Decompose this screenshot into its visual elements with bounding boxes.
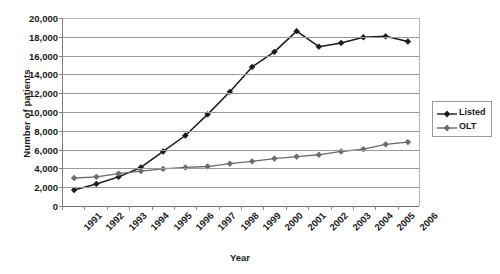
x-axis-tick-mark	[286, 206, 287, 210]
legend-label: Listed	[459, 107, 486, 117]
x-axis-tick-label: 1995	[171, 210, 194, 233]
x-axis-tick-label: 1998	[238, 210, 261, 233]
gridline	[63, 168, 419, 169]
x-axis-tick-label: 2002	[327, 210, 350, 233]
y-axis-tick-label: 12,000	[12, 88, 58, 99]
x-axis-tick-label: 2004	[372, 210, 395, 233]
x-axis-tick-label: 2001	[305, 210, 328, 233]
x-axis-tick-label: 2000	[283, 210, 306, 233]
legend-label: OLT	[459, 121, 476, 131]
gridline	[63, 150, 419, 151]
x-axis-tick-label: 1991	[81, 210, 104, 233]
y-axis-tick-labels: 02,0004,0006,0008,00010,00012,00014,0001…	[12, 12, 58, 212]
gridline	[63, 93, 419, 94]
y-axis-tick-label: 0	[12, 201, 58, 212]
legend-item-listed: Listed	[436, 105, 486, 119]
x-axis-tick-label: 1996	[193, 210, 216, 233]
y-axis-tick-mark	[59, 168, 63, 169]
x-axis-tick-mark	[308, 206, 309, 210]
y-axis-tick-label: 14,000	[12, 69, 58, 80]
plot-area	[62, 18, 420, 206]
y-axis-tick-mark	[59, 37, 63, 38]
x-axis-tick-mark	[241, 206, 242, 210]
x-axis-tick-mark	[84, 206, 85, 210]
data-point-marker	[294, 154, 300, 160]
y-axis-tick-mark	[59, 74, 63, 75]
x-axis-tick-mark	[219, 206, 220, 210]
gridline	[63, 74, 419, 75]
data-point-marker	[93, 181, 99, 187]
data-point-marker	[338, 40, 344, 46]
x-axis-tick-label: 1993	[126, 210, 149, 233]
y-axis-tick-label: 2,000	[12, 182, 58, 193]
x-axis-tick-label: 1992	[104, 210, 127, 233]
x-axis-tick-mark	[129, 206, 130, 210]
y-axis-tick-mark	[59, 131, 63, 132]
x-axis-tick-mark	[152, 206, 153, 210]
x-axis-tick-mark	[107, 206, 108, 210]
x-axis-tick-mark	[263, 206, 264, 210]
x-axis-tick-label: 1997	[215, 210, 238, 233]
x-axis-tick-mark	[398, 206, 399, 210]
data-point-marker	[93, 174, 99, 180]
data-point-marker	[227, 161, 233, 167]
x-axis-tick-label: 1999	[260, 210, 283, 233]
gridline	[63, 18, 419, 19]
x-axis-tick-labels: 1991199219931994199519961997199819992000…	[62, 206, 420, 252]
legend-marker-icon	[436, 106, 458, 118]
data-point-marker	[405, 39, 411, 45]
data-point-marker	[71, 175, 77, 181]
legend-marker-icon	[436, 120, 458, 132]
legend-item-olt: OLT	[436, 119, 486, 133]
x-axis-tick-mark	[196, 206, 197, 210]
x-axis-tick-label: 2005	[394, 210, 417, 233]
y-axis-tick-mark	[59, 56, 63, 57]
y-axis-tick-label: 18,000	[12, 31, 58, 42]
y-axis-tick-mark	[59, 112, 63, 113]
gridline	[63, 187, 419, 188]
y-axis-tick-mark	[59, 93, 63, 94]
y-axis-tick-mark	[59, 18, 63, 19]
x-axis-tick-mark	[331, 206, 332, 210]
y-axis-tick-label: 10,000	[12, 107, 58, 118]
data-point-marker	[405, 139, 411, 145]
gridline	[63, 37, 419, 38]
x-axis-tick-mark	[353, 206, 354, 210]
gridline	[63, 131, 419, 132]
x-axis-tick-label: 2006	[417, 210, 440, 233]
x-axis-tick-label: 2003	[350, 210, 373, 233]
y-axis-tick-label: 6,000	[12, 144, 58, 155]
y-axis-tick-label: 8,000	[12, 125, 58, 136]
x-axis-tick-mark	[62, 206, 63, 210]
x-axis-tick-mark	[174, 206, 175, 210]
y-axis-tick-mark	[59, 150, 63, 151]
data-point-marker	[316, 152, 322, 158]
gridline	[63, 112, 419, 113]
y-axis-tick-label: 20,000	[12, 13, 58, 24]
data-point-marker	[383, 142, 389, 148]
gridline	[63, 56, 419, 57]
chart-container: Number of patients 02,0004,0006,0008,000…	[0, 0, 500, 274]
x-axis-tick-label: 1994	[148, 210, 171, 233]
chart-legend: ListedOLT	[432, 101, 492, 137]
series-line	[74, 142, 408, 178]
data-point-marker	[249, 158, 255, 164]
x-axis-title: Year	[0, 252, 480, 263]
y-axis-tick-label: 4,000	[12, 163, 58, 174]
y-axis-tick-label: 16,000	[12, 50, 58, 61]
x-axis-tick-mark	[375, 206, 376, 210]
y-axis-tick-mark	[59, 187, 63, 188]
data-point-marker	[271, 156, 277, 162]
